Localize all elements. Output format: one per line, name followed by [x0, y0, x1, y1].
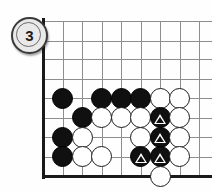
- board-edge-bottom: [42, 175, 212, 178]
- stone-white-a[interactable]: [150, 88, 171, 109]
- triangle-fill: [156, 117, 164, 123]
- stone-white-h[interactable]: [130, 127, 151, 148]
- stone-black-marked-4[interactable]: [150, 146, 171, 167]
- stone-black-e[interactable]: [72, 107, 93, 128]
- triangle-outline: [154, 133, 166, 143]
- stone-white-f[interactable]: [169, 107, 190, 128]
- stone-black-f[interactable]: [52, 127, 73, 148]
- triangle-outline: [154, 114, 166, 124]
- stone-white-c[interactable]: [91, 107, 112, 128]
- triangle-marker-icon: [151, 108, 170, 127]
- stone-black-g[interactable]: [52, 146, 73, 167]
- stone-white-m[interactable]: [150, 166, 171, 187]
- grid-line-horizontal: [43, 59, 212, 60]
- stone-white-e[interactable]: [130, 107, 151, 128]
- stone-black-c[interactable]: [111, 88, 132, 109]
- triangle-marker-icon: [151, 147, 170, 166]
- triangle-fill: [137, 156, 145, 162]
- stone-white-k[interactable]: [91, 146, 112, 167]
- stone-black-a[interactable]: [52, 88, 73, 109]
- grid-line-horizontal: [43, 21, 212, 22]
- stone-white-l[interactable]: [169, 146, 190, 167]
- triangle-fill: [156, 136, 164, 142]
- go-problem-diagram: 3: [0, 0, 212, 191]
- triangle-marker-icon: [151, 128, 170, 147]
- stone-black-marked-3[interactable]: [130, 146, 151, 167]
- triangle-marker-icon: [131, 147, 150, 166]
- stone-black-b[interactable]: [91, 88, 112, 109]
- stone-white-g[interactable]: [72, 127, 93, 148]
- diagram-number-badge: 3: [11, 17, 48, 54]
- stone-black-marked-1[interactable]: [150, 107, 171, 128]
- triangle-fill: [156, 156, 164, 162]
- triangle-outline: [154, 153, 166, 163]
- diagram-number-label: 3: [25, 28, 33, 43]
- stone-white-d[interactable]: [111, 107, 132, 128]
- stone-white-j[interactable]: [72, 146, 93, 167]
- stone-black-d[interactable]: [130, 88, 151, 109]
- grid-line-horizontal: [43, 79, 212, 80]
- stone-white-i[interactable]: [169, 127, 190, 148]
- stone-black-marked-2[interactable]: [150, 127, 171, 148]
- stone-white-b[interactable]: [169, 88, 190, 109]
- triangle-outline: [135, 153, 147, 163]
- grid-line-horizontal: [43, 41, 212, 42]
